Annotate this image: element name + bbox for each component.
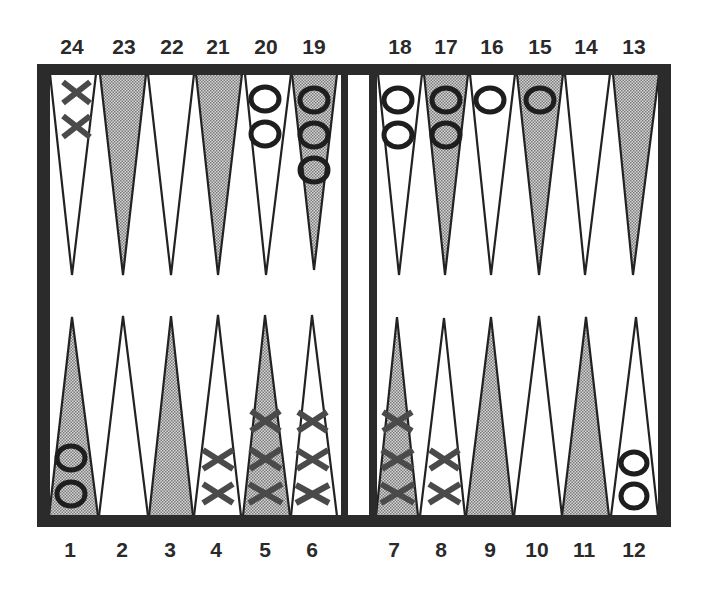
point-label-16: 16: [480, 35, 503, 58]
point-label-22: 22: [160, 35, 183, 58]
frame-left: [37, 64, 50, 527]
point-label-7: 7: [388, 538, 400, 561]
point-label-11: 11: [573, 538, 596, 561]
point-label-8: 8: [435, 538, 447, 561]
bar-left-edge: [341, 64, 348, 527]
point-label-14: 14: [574, 35, 598, 58]
point-label-1: 1: [64, 538, 76, 561]
point-label-9: 9: [484, 538, 496, 561]
top-point-labels: 24 23 22 21 20 19 18 17 16 15 14 13: [60, 35, 645, 58]
frame-bottom: [37, 515, 671, 527]
frame-right: [658, 64, 671, 527]
point-label-2: 2: [116, 538, 128, 561]
point-label-24: 24: [60, 35, 84, 58]
point-label-17: 17: [434, 35, 457, 58]
bottom-point-labels: 1 2 3 4 5 6 7 8 9 10 11 12: [64, 538, 646, 561]
frame-top: [37, 64, 671, 75]
point-label-13: 13: [622, 35, 645, 58]
point-label-3: 3: [164, 538, 176, 561]
point-label-12: 12: [622, 538, 645, 561]
point-label-6: 6: [306, 538, 318, 561]
point-label-20: 20: [254, 35, 277, 58]
point-label-4: 4: [210, 538, 222, 561]
bar[interactable]: [348, 75, 369, 515]
backgammon-board: 24 23 22 21 20 19 18 17 16 15 14 13 1 2 …: [0, 0, 703, 600]
point-label-5: 5: [259, 538, 271, 561]
point-label-10: 10: [525, 538, 548, 561]
point-label-23: 23: [112, 35, 135, 58]
point-label-19: 19: [302, 35, 325, 58]
point-label-21: 21: [206, 35, 230, 58]
point-label-15: 15: [528, 35, 552, 58]
point-label-18: 18: [388, 35, 412, 58]
bar-right-edge: [369, 64, 377, 527]
